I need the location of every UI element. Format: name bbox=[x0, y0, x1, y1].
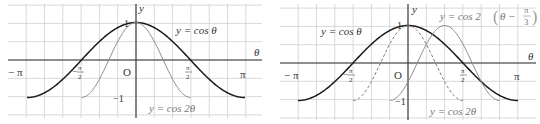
left-theta-axis-label: θ bbox=[254, 46, 260, 58]
right-theta-axis-label: θ bbox=[528, 50, 534, 62]
label-theta-minus: θ − bbox=[500, 10, 516, 22]
fraction-denominator: 2 bbox=[349, 76, 353, 84]
label-prefix: y = cos 2 bbox=[439, 10, 481, 22]
right-label-cos2: y = cos 2θ bbox=[429, 105, 477, 117]
fraction-denominator: 2 bbox=[186, 73, 190, 81]
left-label-cos2: y = cos 2θ bbox=[148, 102, 196, 114]
right-tick-neg-pi: − π bbox=[284, 69, 299, 81]
graphs-canvas: y θ 1 −1 O − π π − π 2 π 2 y = cos θ y =… bbox=[0, 0, 540, 124]
left-tick-one: 1 bbox=[124, 18, 129, 29]
open-paren: ( bbox=[493, 8, 498, 26]
right-origin: O bbox=[394, 69, 402, 81]
fraction-numerator: π bbox=[78, 64, 82, 72]
left-label-cos: y = cos θ bbox=[175, 24, 217, 36]
neg-sign: − bbox=[72, 66, 77, 76]
right-tick-pi: π bbox=[514, 70, 520, 82]
right-y-axis-label: y bbox=[411, 3, 417, 15]
fraction-numerator: π bbox=[524, 5, 529, 15]
left-grid bbox=[8, 4, 262, 118]
left-y-axis-label: y bbox=[138, 2, 144, 14]
left-tick-neg-pi: − π bbox=[8, 66, 23, 78]
right-tick-one: 1 bbox=[397, 20, 402, 31]
fraction-numerator: π bbox=[349, 67, 353, 75]
fraction-denominator: 2 bbox=[78, 73, 82, 81]
left-tick-pi: π bbox=[240, 68, 246, 80]
right-label-cos: y = cos θ bbox=[320, 25, 362, 37]
fraction-numerator: π bbox=[186, 64, 190, 72]
left-origin: O bbox=[123, 66, 131, 78]
left-tick-neg-one: −1 bbox=[113, 93, 124, 104]
fraction-numerator: π bbox=[461, 67, 465, 75]
fraction-denominator: 2 bbox=[461, 76, 465, 84]
right-graph: y θ 1 −1 O − π π − π 2 π 2 y = cos θ y =… bbox=[280, 3, 537, 120]
neg-sign: − bbox=[343, 69, 348, 79]
right-tick-neg-one: −1 bbox=[395, 96, 406, 107]
close-paren: ) bbox=[532, 8, 537, 26]
fraction-denominator: 3 bbox=[524, 17, 529, 27]
left-graph: y θ 1 −1 O − π π − π 2 π 2 y = cos θ y =… bbox=[8, 2, 262, 118]
